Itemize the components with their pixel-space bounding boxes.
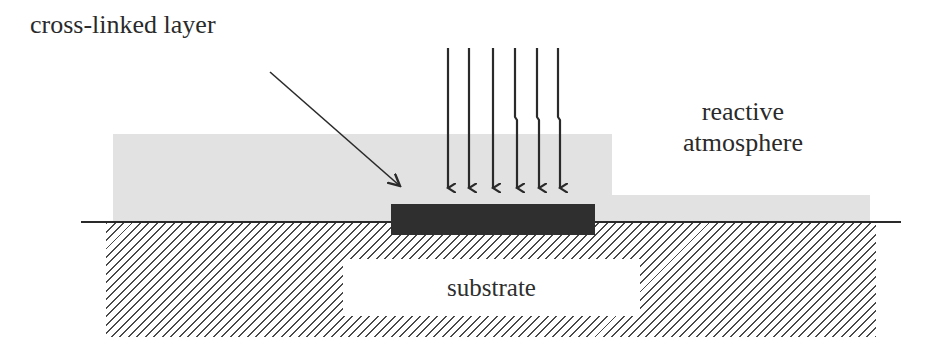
substrate-label: substrate — [447, 274, 536, 302]
cross-linked-layer-label: cross-linked layer — [30, 10, 216, 40]
reactive-atmosphere-label-line2: atmosphere — [655, 127, 831, 158]
substrate-label-box: substrate — [343, 259, 640, 316]
reactive-atmosphere-label-line1: reactive — [655, 96, 831, 127]
reactive-atmosphere-region-right — [612, 195, 870, 222]
cross-linked-layer — [391, 204, 595, 235]
reactive-atmosphere-label: reactive atmosphere — [655, 96, 831, 158]
